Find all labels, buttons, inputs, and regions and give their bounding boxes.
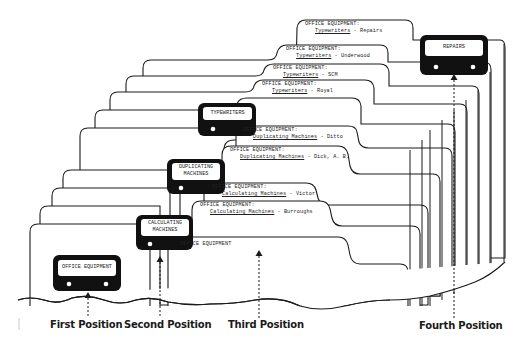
- folder-label-underwood: OFFICE EQUIPMENT: Typewriters - Underwoo…: [286, 46, 370, 60]
- guide-label-duplicating-machines: DUPLICATING MACHINES: [172, 164, 220, 178]
- folder-label-dick: OFFICE EQUIPMENT: Duplicating Machines -…: [230, 147, 349, 161]
- guide-office-equipment: [53, 255, 121, 291]
- folder-label-scm: OFFICE EQUIPMENT: Typewriters - SCM: [273, 65, 338, 79]
- position-label-second: Second Position: [124, 319, 211, 330]
- folder-label-victor: OFFICE EQUIPMENT: Calculating Machines -…: [212, 184, 315, 198]
- folder-label-burroughs: OFFICE EQUIPMENT: Calculating Machines -…: [200, 202, 313, 216]
- position-label-third: Third Position: [228, 319, 304, 330]
- guide-label-repairs: REPAIRS: [425, 44, 483, 51]
- folder-label-office-equipment: OFFICE EQUIPMENT: [180, 241, 231, 248]
- guide-label-office-equipment: OFFICE EQUIPMENT: [58, 264, 116, 271]
- folder-stack-drawing: [0, 0, 521, 346]
- guide-label-typewriters: TYPEWRITERS: [203, 110, 252, 117]
- guide-label-calculating-machines: CALCULATING MACHINES: [141, 220, 189, 234]
- folder-label-ditto: OFFICE EQUIPMENT: Duplicating Machines -…: [243, 127, 343, 141]
- position-label-fourth: Fourth Position: [419, 320, 503, 331]
- position-label-first: First Position: [50, 319, 122, 330]
- guide-repairs: [420, 35, 488, 75]
- folder-label-royal: OFFICE EQUIPMENT: Typewriters - Royal: [262, 81, 333, 95]
- folder-label-repairs: OFFICE EQUIPMENT: Typewriters - Repairs: [305, 21, 382, 35]
- filing-diagram: OFFICE EQUIPMENT: Typewriters - Repairs …: [0, 0, 521, 346]
